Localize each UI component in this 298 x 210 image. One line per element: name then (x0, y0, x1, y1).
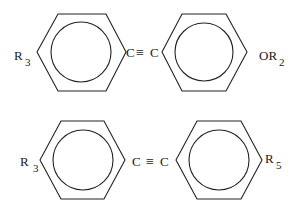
substituent-r3-top-subscript: 3 (25, 56, 31, 68)
benzene-ring-top-left (37, 14, 126, 91)
aromatic-circle (175, 23, 233, 81)
alkyne-carbon-left: C (126, 45, 135, 60)
chemical-diagram: R 3 C ≡ C OR 2 R 3 C ≡ C R 5 (0, 0, 298, 210)
aromatic-circle (53, 130, 113, 190)
benzene-ring-top-right (162, 14, 247, 91)
substituent-r5: R (265, 151, 274, 166)
top-molecule: R 3 C ≡ C OR 2 (14, 14, 285, 91)
alkyne-carbon-right: C (150, 45, 159, 60)
hexagon (37, 14, 126, 91)
bottom-molecule: R 3 C ≡ C R 5 (20, 121, 282, 199)
alkyne-carbon-left: C (132, 154, 141, 169)
substituent-r5-subscript: 5 (276, 159, 282, 171)
triple-bond: ≡ (146, 154, 154, 169)
triple-bond: ≡ (136, 45, 144, 60)
aromatic-circle (51, 22, 111, 82)
substituent-r3-top: R (14, 48, 23, 63)
alkyne-carbon-right: C (160, 154, 169, 169)
substituent-r3-bottom-subscript: 3 (33, 162, 39, 174)
aromatic-circle (189, 130, 249, 190)
substituent-or2: OR (259, 48, 277, 63)
benzene-ring-bottom-left (40, 121, 125, 199)
substituent-or2-subscript: 2 (279, 56, 285, 68)
benzene-ring-bottom-right (176, 121, 262, 199)
substituent-r3-bottom: R (20, 154, 29, 169)
